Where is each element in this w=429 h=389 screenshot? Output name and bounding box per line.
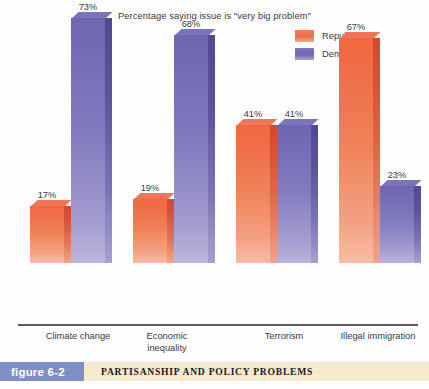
bar-front-face	[133, 199, 167, 263]
bar-group-economic-inequality: 19% 68%	[133, 2, 243, 263]
bar-side-face	[414, 186, 421, 263]
bar-side-face	[270, 125, 277, 263]
bar-side-face	[105, 18, 112, 263]
bar-group-climate-change: 17% 73%	[30, 2, 140, 263]
bar-value-republicans-climate-change: 17%	[21, 190, 73, 200]
bar-front-face	[30, 206, 64, 263]
bar-republicans-economic-inequality: 19%	[133, 199, 167, 263]
bar-group-illegal-immigration: 67% 23%	[339, 2, 429, 263]
x-axis-label-terrorism: Terrorism	[229, 331, 339, 343]
bar-front-face	[339, 38, 373, 263]
x-axis-baseline	[18, 324, 418, 326]
bar-value-democrats-illegal-immigration: 23%	[371, 170, 423, 180]
bar-front-face	[277, 125, 311, 263]
bar-side-face	[373, 38, 380, 263]
bar-democrats-illegal-immigration: 23%	[380, 186, 414, 263]
bar-republicans-illegal-immigration: 67%	[339, 38, 373, 263]
bar-side-face	[311, 125, 318, 263]
x-axis-label-illegal-immigration: Illegal immigration	[336, 331, 420, 343]
bar-side-face	[208, 35, 215, 263]
bar-value-democrats-economic-inequality: 68%	[165, 19, 217, 29]
x-axis-label-economic-inequality: Economic inequality	[126, 331, 208, 354]
plot-area: 17% 73% 19%	[0, 0, 429, 327]
bar-group-terrorism: 41% 41%	[236, 2, 346, 263]
bar-front-face	[236, 125, 270, 263]
bar-side-face	[167, 199, 174, 263]
bar-front-face	[71, 18, 105, 263]
bar-side-face	[64, 206, 71, 263]
bar-democrats-climate-change: 73%	[71, 18, 105, 263]
bar-front-face	[380, 186, 414, 263]
bar-value-democrats-climate-change: 73%	[62, 2, 114, 12]
bar-front-face	[174, 35, 208, 263]
figure-caption-text: PARTISANSHIP AND POLICY PROBLEMS	[84, 362, 429, 381]
bar-republicans-climate-change: 17%	[30, 206, 64, 263]
bar-democrats-terrorism: 41%	[277, 125, 311, 263]
figure-number-tag: figure 6-2	[0, 362, 84, 381]
bar-republicans-terrorism: 41%	[236, 125, 270, 263]
figure-caption-bar: figure 6-2 PARTISANSHIP AND POLICY PROBL…	[0, 362, 429, 381]
bar-value-republicans-economic-inequality: 19%	[124, 183, 176, 193]
x-axis-label-climate-change: Climate change	[23, 331, 133, 343]
figure-container: Percentage saying issue is "very big pro…	[0, 0, 429, 389]
bar-value-democrats-terrorism: 41%	[268, 109, 320, 119]
bar-value-republicans-illegal-immigration: 67%	[330, 22, 382, 32]
bar-democrats-economic-inequality: 68%	[174, 35, 208, 263]
